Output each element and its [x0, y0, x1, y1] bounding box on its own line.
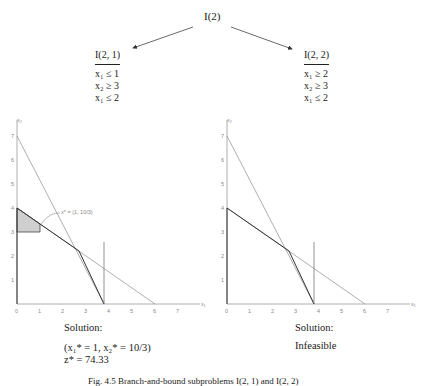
- svg-text:7: 7: [386, 308, 389, 314]
- svg-text:4: 4: [221, 205, 224, 211]
- svg-text:1: 1: [248, 308, 251, 314]
- svg-text:7: 7: [176, 308, 179, 314]
- solution-status: Infeasible: [295, 340, 336, 352]
- svg-text:x₂: x₂: [17, 117, 22, 123]
- svg-text:3: 3: [221, 229, 224, 235]
- svg-text:6: 6: [363, 308, 366, 314]
- left-solution: Solution: (x₁* = 1, x₂* = 10/3) z* = 74.…: [64, 322, 151, 366]
- svg-text:2: 2: [221, 253, 224, 259]
- svg-text:4: 4: [107, 308, 110, 314]
- figure-caption: Fig. 4.5 Branch-and-bound subproblems I(…: [88, 376, 298, 386]
- svg-text:2: 2: [11, 253, 14, 259]
- branch-arrow-left: [133, 27, 193, 48]
- right-plot: 0123 4567 x₁ 1234 567 x₂: [221, 117, 416, 314]
- svg-text:3: 3: [11, 229, 14, 235]
- constraint: x₁ ≥ 2: [304, 68, 329, 80]
- svg-text:5: 5: [130, 308, 133, 314]
- objective-value: z* = 74.33: [64, 354, 151, 366]
- svg-text:1: 1: [38, 308, 41, 314]
- svg-text:x₁: x₁: [411, 301, 416, 307]
- branch-arrow-right: [231, 27, 292, 49]
- svg-text:2: 2: [271, 308, 274, 314]
- svg-text:x₁: x₁: [201, 301, 206, 307]
- svg-text:x* = (1, 10/3): x* = (1, 10/3): [61, 209, 93, 215]
- solution-heading: Solution:: [64, 322, 151, 334]
- subproblem-node-left: I(2, 1) x₁ ≤ 1 x₂ ≥ 3 x₁ ≤ 2: [95, 49, 120, 104]
- svg-text:5: 5: [340, 308, 343, 314]
- left-plot: 0123 4567 x₁ 1234 567 x₂ x* = (1, 10/3): [11, 117, 206, 314]
- svg-text:7: 7: [221, 133, 224, 139]
- constraint: x₁ ≤ 2: [304, 92, 329, 104]
- subproblem-node-right: I(2, 2) x₁ ≥ 2 x₂ ≥ 3 x₁ ≤ 2: [304, 49, 329, 104]
- svg-text:1: 1: [221, 277, 224, 283]
- svg-text:6: 6: [11, 157, 14, 163]
- constraint: x₁ ≤ 2: [95, 92, 120, 104]
- svg-text:4: 4: [11, 205, 14, 211]
- svg-text:7: 7: [11, 133, 14, 139]
- node-title: I(2, 1): [95, 49, 120, 65]
- svg-text:5: 5: [11, 181, 14, 187]
- svg-text:x₂: x₂: [227, 117, 232, 123]
- constraint: x₂ ≥ 3: [304, 80, 329, 92]
- svg-text:0: 0: [225, 308, 228, 314]
- svg-text:5: 5: [221, 181, 224, 187]
- solution-values: (x₁* = 1, x₂* = 10/3): [64, 342, 151, 354]
- constraint: x₁ ≤ 1: [95, 68, 120, 80]
- svg-text:6: 6: [221, 157, 224, 163]
- right-solution: Solution: Infeasible: [295, 322, 336, 352]
- constraint: x₂ ≥ 3: [95, 80, 120, 92]
- svg-text:4: 4: [317, 308, 320, 314]
- svg-text:0: 0: [15, 308, 18, 314]
- node-title: I(2, 2): [304, 49, 329, 65]
- svg-text:1: 1: [11, 277, 14, 283]
- solution-heading: Solution:: [295, 322, 336, 334]
- feasible-region: [17, 208, 40, 232]
- svg-text:3: 3: [294, 308, 297, 314]
- svg-text:2: 2: [61, 308, 64, 314]
- svg-text:3: 3: [84, 308, 87, 314]
- svg-text:6: 6: [153, 308, 156, 314]
